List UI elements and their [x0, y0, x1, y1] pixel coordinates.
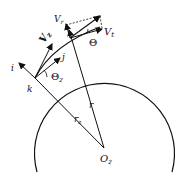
j-label: j — [60, 52, 65, 62]
rz-label: rz — [74, 114, 82, 125]
vt-label: Vt — [104, 26, 114, 39]
r-label: r — [89, 100, 94, 110]
i-label: i — [11, 63, 14, 73]
oz-label: Oz — [100, 153, 112, 166]
v-resultant-arrow — [70, 16, 100, 38]
i-axis-arrow — [19, 63, 35, 78]
theta-label: Θ — [89, 37, 97, 48]
orbit-diagram: i k j Vz Vr Vt Θ Θz r rz Oz — [0, 0, 188, 185]
theta-z-label: Θz — [51, 71, 63, 84]
vz-arrow — [35, 44, 52, 78]
vr-label: Vr — [54, 14, 65, 25]
k-label: k — [27, 84, 32, 94]
vz-label: Vz — [37, 28, 55, 46]
theta-z-angle-arc — [44, 70, 47, 77]
parallelogram-side — [100, 16, 102, 28]
